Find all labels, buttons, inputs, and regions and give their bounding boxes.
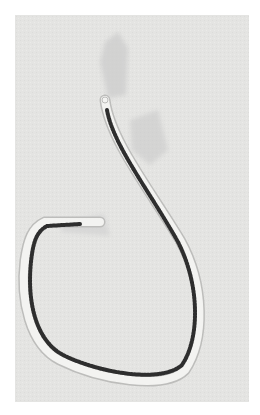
- figure-caption: [16, 404, 156, 412]
- nematode-illustration: [15, 15, 249, 402]
- micrograph-photo: [15, 15, 249, 402]
